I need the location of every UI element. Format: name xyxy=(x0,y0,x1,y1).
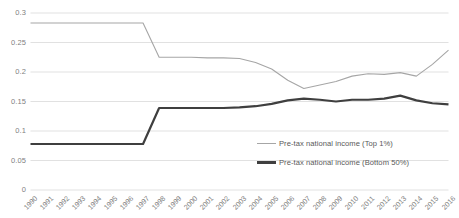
legend-label-top-1-percent: Pre-tax national income (Top 1%) xyxy=(279,139,393,148)
series-line-top-1-percent xyxy=(31,23,449,88)
y-axis-tick-label: 0.1 xyxy=(2,126,26,135)
y-axis-tick-label: 0.2 xyxy=(2,67,26,76)
y-axis-tick-label: 0 xyxy=(2,185,26,194)
legend-item-bottom-50-percent: Pre-tax national income (Bottom 50%) xyxy=(257,158,409,167)
chart-container: 00.050.10.150.20.250.3 19901991199219931… xyxy=(0,0,459,218)
legend-swatch-bottom-50-percent xyxy=(257,161,276,163)
y-axis-tick-label: 0.25 xyxy=(2,38,26,47)
legend-swatch-top-1-percent xyxy=(257,143,276,144)
series-line-bottom-50-percent xyxy=(31,96,449,144)
y-axis-tick-label: 0.15 xyxy=(2,97,26,106)
y-axis-tick-label: 0.3 xyxy=(2,8,26,17)
legend-label-bottom-50-percent: Pre-tax national income (Bottom 50%) xyxy=(279,158,409,167)
y-axis-tick-label: 0.05 xyxy=(2,156,26,165)
legend-item-top-1-percent: Pre-tax national income (Top 1%) xyxy=(257,139,393,148)
series-paths-group xyxy=(31,23,449,144)
chart-plot-area xyxy=(0,0,459,218)
